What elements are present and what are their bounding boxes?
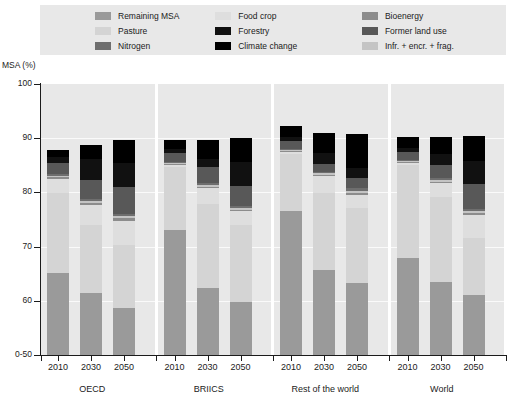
bar-segment-pasture	[197, 204, 219, 288]
x-year-labels: 201020302050	[158, 358, 275, 376]
bar-segment-food-crop	[346, 195, 368, 208]
bar-segment-remaining-msa	[47, 273, 69, 355]
x-year-label: 2050	[458, 362, 490, 372]
bar-briics-2030	[197, 140, 219, 355]
bar-segment-former-land-use	[164, 153, 186, 162]
bar-segment-former-land-use	[113, 187, 135, 214]
bar-segment-former-land-use	[313, 164, 335, 172]
bar-segment-food-crop	[230, 211, 252, 225]
bar-segment-former-land-use	[47, 163, 69, 175]
bar-briics-2010	[164, 140, 186, 355]
bar-segment-forestry	[80, 159, 102, 180]
x-axis-labels: 201020302050OECD201020302050BRIICS201020…	[41, 358, 507, 406]
bar-segment-food-crop	[47, 179, 69, 194]
bar-segment-climate-change	[230, 138, 252, 162]
x-year-label: 2050	[108, 362, 140, 372]
y-tick-label: 70	[23, 242, 32, 251]
bar-segment-remaining-msa	[280, 211, 302, 355]
bar-segment-former-land-use	[197, 167, 219, 183]
x-year-label: 2010	[159, 362, 191, 372]
group-separator	[388, 84, 391, 355]
bar-oecd-2050	[113, 140, 135, 355]
bar-segment-remaining-msa	[230, 302, 252, 355]
bar-segment-former-land-use	[397, 152, 419, 160]
bottom-strip	[0, 404, 516, 410]
x-group-name: BRIICS	[158, 375, 261, 394]
bar-segment-food-crop	[313, 176, 335, 193]
x-group-name: World	[391, 375, 494, 394]
bar-world-2010	[397, 137, 419, 355]
bar-segment-food-crop	[113, 221, 135, 245]
bar-segment-food-crop	[197, 188, 219, 204]
bar-segment-pasture	[397, 165, 419, 258]
y-axis-line	[40, 83, 41, 356]
bar-segment-remaining-msa	[197, 288, 219, 355]
bar-oecd-2010	[47, 150, 69, 355]
x-year-label: 2050	[341, 362, 373, 372]
bar-rest-of-the-world-2010	[280, 126, 302, 355]
bar-segment-pasture	[430, 197, 452, 282]
bar-segment-pasture	[47, 193, 69, 272]
x-year-label: 2010	[275, 362, 307, 372]
bar-segment-remaining-msa	[430, 282, 452, 355]
x-year-label: 2030	[192, 362, 224, 372]
bar-briics-2050	[230, 138, 252, 355]
bar-segment-forestry	[197, 159, 219, 168]
bar-segment-former-land-use	[430, 165, 452, 179]
bar-segment-forestry	[463, 161, 485, 184]
bar-rest-of-the-world-2050	[346, 134, 368, 355]
bar-oecd-2030	[80, 145, 102, 355]
bar-segment-climate-change	[197, 140, 219, 158]
x-year-label: 2030	[75, 362, 107, 372]
x-year-label: 2010	[392, 362, 424, 372]
chart-plot-area: 0-5060708090100 201020302050OECD20102030…	[0, 0, 516, 410]
group-separator	[155, 84, 158, 355]
bar-segment-pasture	[313, 193, 335, 269]
group-separator	[271, 84, 274, 355]
bar-segment-former-land-use	[230, 186, 252, 207]
bar-segment-climate-change	[313, 133, 335, 153]
bar-segment-remaining-msa	[346, 283, 368, 355]
bar-segment-food-crop	[463, 215, 485, 239]
bar-segment-climate-change	[430, 137, 452, 154]
bar-segment-former-land-use	[280, 141, 302, 149]
y-tick-label: 90	[23, 133, 32, 142]
x-year-labels: 201020302050	[391, 358, 508, 376]
bar-segment-former-land-use	[463, 184, 485, 209]
bar-segment-pasture	[346, 208, 368, 283]
x-year-label: 2050	[225, 362, 257, 372]
x-year-label: 2030	[308, 362, 340, 372]
bar-segment-remaining-msa	[113, 308, 135, 355]
bar-segment-forestry	[113, 163, 135, 187]
bar-segment-pasture	[463, 238, 485, 295]
bar-segment-forestry	[346, 168, 368, 178]
bar-segment-climate-change	[280, 126, 302, 137]
bar-segment-remaining-msa	[463, 295, 485, 355]
x-group-oecd: 201020302050OECD	[41, 358, 158, 376]
x-year-labels: 201020302050	[41, 358, 158, 376]
bar-segment-food-crop	[430, 183, 452, 197]
x-year-label: 2010	[42, 362, 74, 372]
bar-segment-forestry	[230, 162, 252, 186]
bar-segment-former-land-use	[346, 178, 368, 187]
bar-segment-climate-change	[164, 140, 186, 149]
y-tick	[34, 247, 40, 248]
x-group-name: Rest of the world	[274, 375, 377, 394]
y-tick-label: 0-50	[15, 350, 32, 359]
bar-segment-remaining-msa	[80, 293, 102, 355]
bar-segment-climate-change	[113, 140, 135, 162]
x-year-label: 2030	[425, 362, 457, 372]
bar-segment-pasture	[164, 167, 186, 229]
y-tick	[34, 301, 40, 302]
bar-segment-remaining-msa	[164, 230, 186, 355]
bar-segment-pasture	[113, 245, 135, 308]
y-tick	[34, 355, 40, 356]
y-tick	[34, 84, 40, 85]
bar-rest-of-the-world-2030	[313, 133, 335, 355]
y-tick-label: 80	[23, 187, 32, 196]
bar-segment-remaining-msa	[313, 270, 335, 355]
x-year-labels: 201020302050	[274, 358, 391, 376]
bar-segment-remaining-msa	[397, 258, 419, 354]
bar-segment-pasture	[280, 154, 302, 211]
x-group-name: OECD	[41, 375, 144, 394]
